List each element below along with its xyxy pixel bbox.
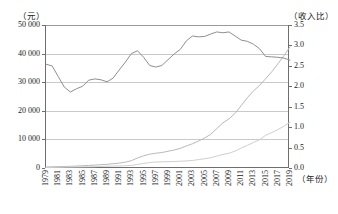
x-axis-tick: 1997 xyxy=(151,170,160,186)
left-axis-tick: 30 000 xyxy=(0,77,40,86)
x-axis-tick: 2005 xyxy=(200,170,209,186)
left-axis-tick: 10 000 xyxy=(0,134,40,143)
x-axis-tick: 2013 xyxy=(248,170,257,186)
left-axis-tick: 40 000 xyxy=(0,49,40,58)
x-axis-tick-labels: 1979198119831985198719891991199319951997… xyxy=(0,170,338,214)
x-axis-tick: 2003 xyxy=(187,170,196,186)
x-axis-tick: 1993 xyxy=(126,170,135,186)
x-axis-tick: 2017 xyxy=(273,170,282,186)
x-axis-tick: 2007 xyxy=(212,170,221,186)
x-axis-tick: 2011 xyxy=(236,170,245,186)
right-axis-tick: 1.0 xyxy=(294,122,334,131)
right-axis-tick: 3.5 xyxy=(294,20,334,29)
right-axis-tick: 0.5 xyxy=(294,143,334,152)
x-axis-tick: 1999 xyxy=(163,170,172,186)
right-axis-tick: 2.5 xyxy=(294,61,334,70)
x-axis-tick: 1983 xyxy=(65,170,74,186)
x-axis-tick: 1991 xyxy=(114,170,123,186)
x-axis-tick: 1995 xyxy=(139,170,148,186)
chart-container: （元） （收入比） 010 00020 00030 00040 00050 00… xyxy=(0,0,338,214)
series-line xyxy=(46,47,290,167)
x-axis-tick: 1987 xyxy=(90,170,99,186)
x-axis-tick: 1979 xyxy=(41,170,50,186)
left-axis-tick: 20 000 xyxy=(0,106,40,115)
series-line xyxy=(46,122,290,167)
left-axis-tickmark xyxy=(42,168,45,169)
series-line xyxy=(46,32,290,92)
right-axis-tickmark xyxy=(289,168,292,169)
right-axis-tick: 1.5 xyxy=(294,102,334,111)
x-axis-tick: 2019 xyxy=(285,170,294,186)
x-axis-tick: 1989 xyxy=(102,170,111,186)
x-axis-tick: 1981 xyxy=(53,170,62,186)
right-axis-tick: 2.0 xyxy=(294,81,334,90)
x-axis-tick: 2009 xyxy=(224,170,233,186)
x-axis-tick: 2001 xyxy=(175,170,184,186)
plot-area xyxy=(45,25,289,168)
left-axis-tick: 50 000 xyxy=(0,20,40,29)
right-axis-tick: 3.0 xyxy=(294,40,334,49)
series-lines xyxy=(46,25,290,168)
x-axis-tick: 1985 xyxy=(78,170,87,186)
x-axis-tick: 2015 xyxy=(261,170,270,186)
x-axis-title: （年份） xyxy=(297,172,333,184)
